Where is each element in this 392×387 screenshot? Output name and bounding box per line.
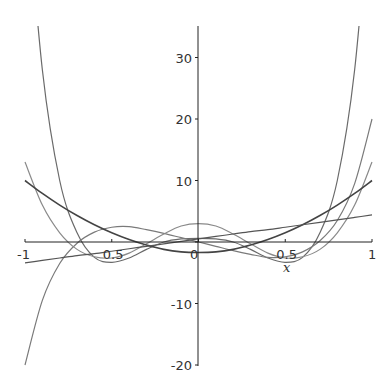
origin-label: 0: [190, 247, 198, 262]
x-tick-label: 0.5: [103, 247, 124, 262]
x-tick-label: -1: [17, 247, 30, 262]
y-tick-label: -20: [171, 358, 192, 373]
x-tick-label: 1: [368, 247, 376, 262]
chart-plot: -10.50.51 -20-10102030 0 x: [0, 0, 392, 387]
y-tick-label: 20: [175, 112, 192, 127]
y-ticks: -20-10102030: [171, 51, 198, 374]
y-tick-label: 30: [175, 51, 192, 66]
x-axis-label: x: [283, 260, 291, 275]
y-tick-label: -10: [171, 297, 192, 312]
y-tick-label: 10: [175, 174, 192, 189]
